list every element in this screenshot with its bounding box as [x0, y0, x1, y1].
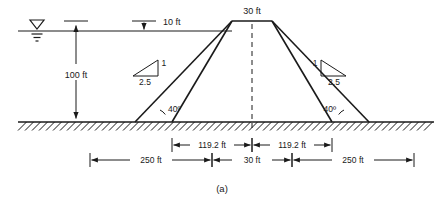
dimension-base-right-label: 250 ft	[342, 155, 364, 165]
embankment-cross-section-diagram: 100 ft 10 ft 30 ft 1 2.5 1 2.5 40º 40º 1…	[0, 0, 445, 207]
dimension-crest-width-label: 30 ft	[244, 155, 261, 165]
figure-caption: (a)	[216, 183, 228, 194]
slope-rise-label-right: 1	[313, 58, 318, 68]
angle-label-right: 40º	[323, 104, 336, 114]
slope-run-label-right: 2.5	[328, 77, 340, 87]
dimension-inner-base-right: 119.2 ft	[252, 138, 332, 152]
slope-run-label-left: 2.5	[139, 77, 151, 87]
dimension-inner-base-left: 119.2 ft	[172, 138, 252, 152]
slope-ratio-marker-right: 1 2.5	[313, 58, 346, 87]
dimension-crest-width: 30 ft	[212, 153, 292, 167]
dimension-inner-base-left-label: 119.2 ft	[198, 140, 226, 150]
slope-rise-label-left: 1	[162, 58, 167, 68]
figure-container: 100 ft 10 ft 30 ft 1 2.5 1 2.5 40º 40º 1…	[0, 0, 445, 207]
angle-marker-left: 40º	[160, 104, 181, 115]
dimension-inner-base-right-label: 119.2 ft	[278, 140, 306, 150]
dimension-freeboard-label: 10 ft	[163, 17, 181, 27]
dimension-dam-height: 100 ft	[64, 21, 88, 119]
angle-label-left: 40º	[168, 104, 181, 114]
ground-hatching	[18, 122, 433, 131]
ground-surface	[18, 122, 434, 131]
angle-marker-right: 40º	[323, 104, 344, 115]
dimension-base-right: 250 ft	[292, 153, 414, 167]
dimension-freeboard: 10 ft	[132, 17, 181, 30]
dimension-dam-height-label: 100 ft	[65, 70, 88, 80]
left-outer-slope	[135, 21, 232, 122]
crest-width-label: 30 ft	[243, 6, 261, 16]
dimension-base-left-label: 250 ft	[140, 155, 162, 165]
left-inner-slope	[172, 21, 232, 122]
dimension-base-left: 250 ft	[90, 153, 212, 167]
slope-ratio-marker-left: 1 2.5	[133, 58, 167, 87]
